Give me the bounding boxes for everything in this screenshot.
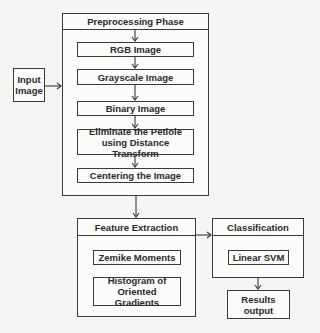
results-output-label: Results output [232, 294, 285, 316]
grayscale-image-node: Grayscale Image [77, 69, 194, 85]
eliminate-petiole-label: Eliminate the Petiole using Distance Tra… [80, 126, 191, 159]
binary-image-label: Binary Image [106, 103, 166, 114]
classification-header: Classification [213, 219, 303, 236]
binary-image-node: Binary Image [77, 101, 194, 116]
eliminate-petiole-node: Eliminate the Petiole using Distance Tra… [77, 129, 194, 155]
zernike-moments-label: Zemike Moments [98, 252, 175, 263]
zernike-moments-node: Zemike Moments [93, 250, 181, 265]
input-image-node: Input Image [13, 68, 45, 102]
rgb-image-node: RGB Image [77, 42, 194, 57]
classification-title: Classification [227, 222, 289, 233]
linear-svm-label: Linear SVM [233, 252, 285, 263]
centering-image-label: Centering the Image [90, 170, 181, 181]
flowchart: Input Image Preprocessing Phase RGB Imag… [0, 0, 320, 333]
input-image-label: Input Image [15, 74, 43, 96]
linear-svm-node: Linear SVM [228, 250, 289, 265]
classification-group: Classification [212, 218, 304, 278]
rgb-image-label: RGB Image [110, 44, 161, 55]
results-output-node: Results output [227, 290, 290, 319]
preprocessing-header: Preprocessing Phase [63, 14, 208, 30]
hog-node: Histogram of Oriented Gradients [93, 277, 181, 306]
preprocessing-title: Preprocessing Phase [87, 16, 184, 27]
hog-label: Histogram of Oriented Gradients [96, 275, 178, 308]
grayscale-image-label: Grayscale Image [98, 72, 174, 83]
centering-image-node: Centering the Image [77, 168, 194, 183]
feature-extraction-header: Feature Extraction [78, 219, 195, 236]
feature-extraction-title: Feature Extraction [95, 222, 178, 233]
